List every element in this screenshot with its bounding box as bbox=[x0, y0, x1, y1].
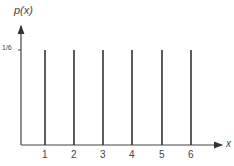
y-axis-label: p(x) bbox=[14, 4, 33, 16]
x-tick-label: 4 bbox=[129, 149, 135, 160]
bars bbox=[45, 50, 191, 145]
x-axis-label: x bbox=[226, 138, 231, 149]
y-tick-label: 1/6 bbox=[2, 44, 12, 51]
plot-area bbox=[0, 0, 234, 166]
x-tick-label: 5 bbox=[159, 149, 165, 160]
x-tick-label: 1 bbox=[42, 149, 48, 160]
x-tick-label: 2 bbox=[71, 149, 77, 160]
x-tick-label: 6 bbox=[188, 149, 194, 160]
x-tick-label: 3 bbox=[100, 149, 106, 160]
chart: p(x) 1/6 x 123456 bbox=[0, 0, 234, 166]
